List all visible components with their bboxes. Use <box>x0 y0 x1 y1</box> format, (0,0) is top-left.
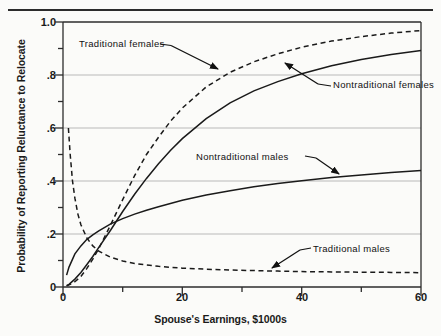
traditional-males-leader <box>272 248 311 268</box>
x-axis-ticks <box>63 287 421 296</box>
y-axis-ticks <box>55 22 63 287</box>
nontraditional-males-curve <box>67 170 421 275</box>
chart-figure: Probability of Reporting Reluctance to R… <box>0 0 441 336</box>
nontraditional-males-leader <box>305 156 339 174</box>
annotation-nontraditional-males: Nontraditional males <box>196 151 289 162</box>
annotation-traditional-males: Traditional males <box>313 243 390 254</box>
annotation-traditional-females: Traditional females <box>79 38 165 49</box>
traditional-females-leader <box>160 44 218 69</box>
plot-area <box>0 0 441 336</box>
annotation-nontraditional-females: Nontraditional females <box>333 79 434 90</box>
